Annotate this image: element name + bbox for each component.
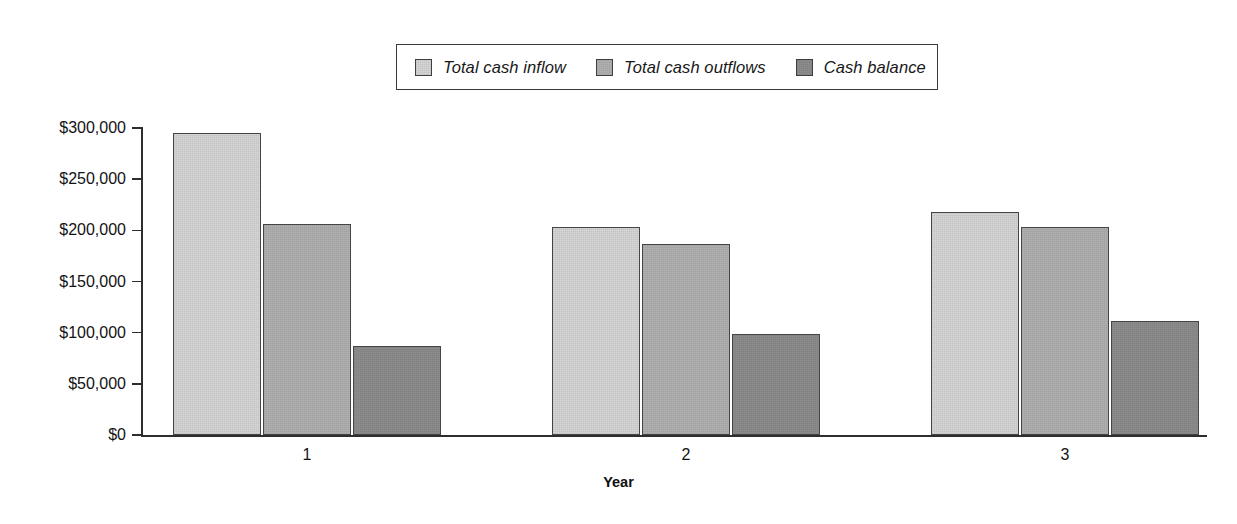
legend-swatch-icon-cash-balance [796,59,813,76]
chart-legend: Total cash inflow Total cash outflows Ca… [396,44,938,90]
x-axis-category-label-3: 3 [1061,446,1070,464]
bar-inflow-year-3 [931,212,1019,435]
x-axis-title: Year [0,474,1237,490]
x-axis-category-label-2: 2 [682,446,691,464]
bar-chart: Total cash inflow Total cash outflows Ca… [0,0,1237,524]
bar-outflow-year-3 [1021,227,1109,435]
legend-entry-total-cash-outflows: Total cash outflows [596,58,766,77]
legend-label-cash-balance: Cash balance [824,58,926,77]
bar-balance-year-1 [353,346,441,435]
x-axis-line [141,435,1207,437]
bar-outflow-year-2 [642,244,730,435]
bar-balance-year-2 [732,334,820,435]
bars-layer [0,128,1237,435]
legend-label-total-cash-inflow: Total cash inflow [443,58,566,77]
legend-swatch-icon-total-cash-outflows [596,59,613,76]
legend-label-total-cash-outflows: Total cash outflows [624,58,766,77]
legend-entry-total-cash-inflow: Total cash inflow [415,58,566,77]
legend-entry-cash-balance: Cash balance [796,58,926,77]
x-axis-category-label-1: 1 [303,446,312,464]
bar-outflow-year-1 [263,224,351,435]
bar-inflow-year-1 [173,133,261,435]
bar-inflow-year-2 [552,227,640,435]
bar-balance-year-3 [1111,321,1199,435]
legend-swatch-icon-total-cash-inflow [415,59,432,76]
